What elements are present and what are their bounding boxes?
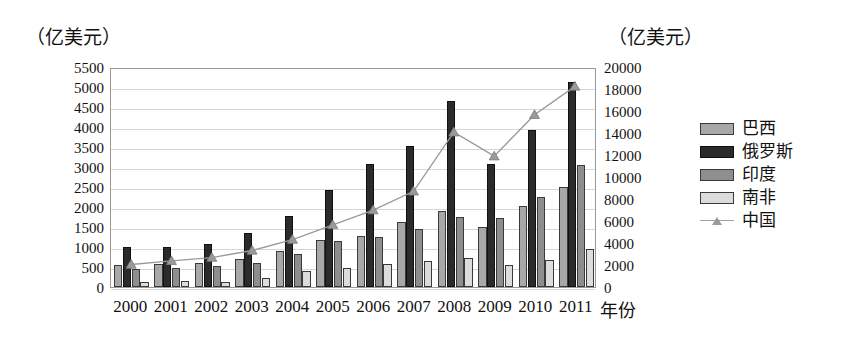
left-axis-tick: 2000 bbox=[74, 201, 104, 216]
left-axis-tick: 1000 bbox=[74, 241, 104, 256]
right-axis-tick: 4000 bbox=[604, 237, 634, 252]
x-axis-tick: 2006 bbox=[353, 298, 394, 316]
left-axis-tick: 3500 bbox=[74, 141, 104, 156]
x-axis-tick: 2007 bbox=[394, 298, 435, 316]
right-axis-tick: 6000 bbox=[604, 215, 634, 230]
legend-item-南非[interactable]: 南非 bbox=[700, 187, 850, 208]
x-axis-tick: 2001 bbox=[151, 298, 192, 316]
x-axis-tick: 2003 bbox=[232, 298, 273, 316]
left-axis-tick: 4500 bbox=[74, 101, 104, 116]
legend-label: 中国 bbox=[742, 212, 776, 229]
bar-巴西 bbox=[559, 187, 567, 287]
x-axis-tick: 2004 bbox=[272, 298, 313, 316]
chart-legend: 巴西俄罗斯印度南非中国 bbox=[700, 118, 850, 233]
legend-swatch-icon bbox=[700, 192, 734, 204]
legend-swatch-icon bbox=[700, 169, 734, 181]
chart-container: （亿美元） （亿美元） 5500500045004000350030002500… bbox=[0, 0, 856, 346]
x-axis-tick: 2010 bbox=[515, 298, 556, 316]
legend-swatch-icon bbox=[700, 146, 734, 158]
x-axis-title: 年份 bbox=[600, 296, 636, 322]
legend-label: 巴西 bbox=[742, 120, 776, 137]
legend-item-俄罗斯[interactable]: 俄罗斯 bbox=[700, 141, 850, 162]
bar-俄罗斯 bbox=[568, 82, 576, 287]
x-axis-tick: 2002 bbox=[191, 298, 232, 316]
left-axis-tick: 5500 bbox=[74, 61, 104, 76]
left-axis-tick: 4000 bbox=[74, 121, 104, 136]
x-axis-tick: 2000 bbox=[110, 298, 151, 316]
left-axis-tick: 3000 bbox=[74, 161, 104, 176]
right-axis-tick: 8000 bbox=[604, 193, 634, 208]
x-axis-tick: 2005 bbox=[313, 298, 354, 316]
legend-swatch-icon bbox=[700, 215, 734, 227]
x-axis-tick: 2011 bbox=[556, 298, 597, 316]
right-axis-tick: 0 bbox=[604, 281, 612, 296]
legend-label: 南非 bbox=[742, 189, 776, 206]
right-axis-tick: 12000 bbox=[604, 149, 642, 164]
bar-南非 bbox=[586, 249, 594, 287]
left-axis: 5500500045004000350030002500200015001000… bbox=[46, 0, 104, 346]
right-axis-tick: 10000 bbox=[604, 171, 642, 186]
right-axis: 2000018000160001400012000100008000600040… bbox=[604, 0, 674, 346]
right-axis-tick: 18000 bbox=[604, 83, 642, 98]
x-axis-tick: 2008 bbox=[434, 298, 475, 316]
right-axis-tick: 2000 bbox=[604, 259, 634, 274]
legend-label: 印度 bbox=[742, 166, 776, 183]
x-axis-tick-labels: 2000200120022003200420052006200720082009… bbox=[110, 296, 596, 322]
left-axis-tick: 500 bbox=[82, 261, 105, 276]
bar-group bbox=[111, 69, 595, 287]
x-axis-tick: 2009 bbox=[475, 298, 516, 316]
right-axis-tick: 20000 bbox=[604, 61, 642, 76]
legend-item-印度[interactable]: 印度 bbox=[700, 164, 850, 185]
legend-item-中国[interactable]: 中国 bbox=[700, 210, 850, 231]
legend-label: 俄罗斯 bbox=[742, 143, 793, 160]
legend-swatch-icon bbox=[700, 123, 734, 135]
left-axis-tick: 0 bbox=[97, 281, 105, 296]
right-axis-tick: 16000 bbox=[604, 105, 642, 120]
right-axis-tick: 14000 bbox=[604, 127, 642, 142]
left-axis-tick: 1500 bbox=[74, 221, 104, 236]
left-axis-tick: 2500 bbox=[74, 181, 104, 196]
plot-area bbox=[110, 68, 596, 288]
gridline bbox=[111, 289, 595, 290]
left-axis-tick: 5000 bbox=[74, 81, 104, 96]
bar-印度 bbox=[577, 165, 585, 287]
legend-item-巴西[interactable]: 巴西 bbox=[700, 118, 850, 139]
